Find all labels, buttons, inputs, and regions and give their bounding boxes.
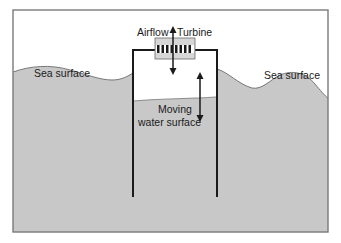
moving-water-label-line2: water surface <box>137 116 201 128</box>
sea-water <box>13 66 133 232</box>
sea-surface-label-left: Sea surface <box>34 67 90 79</box>
owc-diagram: Airflow Turbine Sea surface Sea surface … <box>0 0 341 243</box>
turbine-label: Turbine <box>177 26 212 38</box>
airflow-label: Airflow <box>137 26 169 38</box>
sea-surface-label-right: Sea surface <box>264 69 320 81</box>
moving-water-label-line1: Moving <box>158 103 192 115</box>
sea-water-right <box>217 69 328 232</box>
turbine <box>155 38 195 59</box>
